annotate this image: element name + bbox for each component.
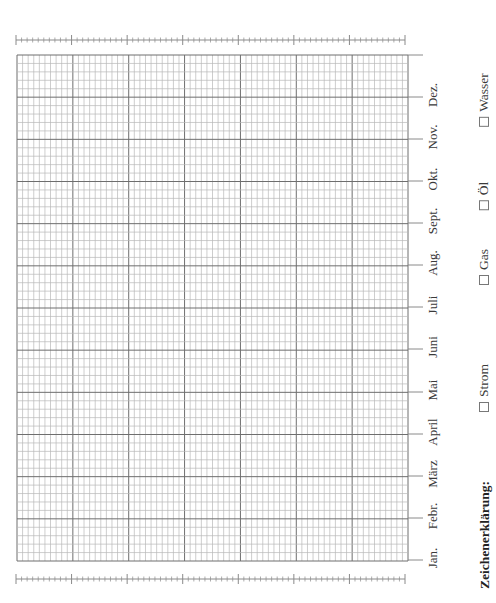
checkbox-icon[interactable] <box>479 275 489 285</box>
checkbox-icon[interactable] <box>479 200 489 210</box>
legend-item-strom[interactable]: Strom <box>476 364 492 412</box>
legend-item-label: Öl <box>476 182 492 196</box>
legend-item-label: Wasser <box>476 73 492 112</box>
month-label: Juli <box>425 296 441 315</box>
checkbox-icon[interactable] <box>479 117 489 127</box>
legend-item-gas[interactable]: Gas <box>476 249 492 285</box>
checkbox-icon[interactable] <box>479 402 489 412</box>
graph-paper-grid <box>0 0 496 603</box>
month-label: Febr. <box>425 503 441 529</box>
month-label: März <box>425 460 441 487</box>
month-label: Juni <box>425 336 441 358</box>
legend-item-label: Gas <box>476 249 492 270</box>
legend-title: Zeichenerklärung: <box>477 481 493 589</box>
month-label: Jan. <box>425 548 441 569</box>
legend-item-oel[interactable]: Öl <box>476 182 492 211</box>
month-label: Nov. <box>425 125 441 150</box>
legend-item-wasser[interactable]: Wasser <box>476 73 492 127</box>
month-label: April <box>425 418 441 445</box>
month-label: Mai <box>425 380 441 401</box>
month-label: Aug. <box>425 250 441 276</box>
legend-item-label: Strom <box>476 364 492 397</box>
month-label: Sept. <box>425 208 441 234</box>
month-label: Dez. <box>425 83 441 107</box>
month-label: Okt. <box>425 168 441 191</box>
